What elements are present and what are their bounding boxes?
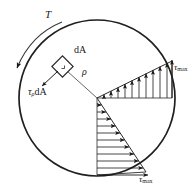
rho-label: ρ xyxy=(82,66,87,77)
max-subscript-upper: max xyxy=(177,66,187,72)
area-element-label: dA xyxy=(74,44,86,55)
tau-rho-dA-label: τρdA xyxy=(28,86,47,97)
tau-max-lower-label: τmax xyxy=(139,174,153,184)
dA-suffix: dA xyxy=(34,86,46,97)
tau-max-upper-label: τmax xyxy=(174,62,188,72)
lower-shear-distribution xyxy=(97,98,148,175)
max-subscript-lower: max xyxy=(142,178,152,184)
upper-hypotenuse xyxy=(97,61,172,98)
tau-rho-dA-arrow xyxy=(42,71,58,86)
dA-text: dA xyxy=(74,44,86,55)
upper-shear-distribution xyxy=(97,60,172,98)
torque-label: T xyxy=(45,8,51,20)
